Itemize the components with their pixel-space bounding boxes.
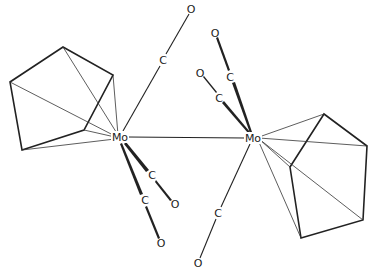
carbon-label: C xyxy=(215,92,223,105)
oxygen-label: O xyxy=(211,27,220,40)
molecule-diagram: Mo Mo C O C O C O C O C O C O xyxy=(0,0,374,276)
carbon-label: C xyxy=(148,169,156,182)
mo-left-label: Mo xyxy=(112,131,128,144)
atom-labels: Mo Mo C O C O C O C O C O C O xyxy=(111,3,262,270)
carbon-label: C xyxy=(141,194,149,207)
cp-ring-right xyxy=(258,114,367,238)
carbon-label: C xyxy=(214,207,222,220)
oxygen-label: O xyxy=(187,3,196,16)
oxygen-label: O xyxy=(171,198,180,211)
oxygen-label: O xyxy=(194,257,203,270)
mo-right-label: Mo xyxy=(245,132,261,145)
carbon-label: C xyxy=(226,71,234,84)
carbon-label: C xyxy=(159,54,167,67)
diagram-canvas: Mo Mo C O C O C O C O C O C O xyxy=(0,0,374,276)
oxygen-label: O xyxy=(196,67,205,80)
oxygen-label: O xyxy=(157,237,166,250)
cp-ring-left xyxy=(10,47,118,150)
mo-mo-bond xyxy=(128,137,245,138)
